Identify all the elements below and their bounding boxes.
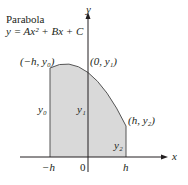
point-left-label: (−h, y₀) xyxy=(20,56,54,67)
x-axis-arrow xyxy=(161,155,168,160)
tick-zero: 0 xyxy=(80,162,86,173)
title-equation: y = Ax² + Bx + C xyxy=(6,26,83,37)
height-y0-label: y₀ xyxy=(38,104,47,115)
tick-neg-h: −h xyxy=(42,162,55,173)
height-y2-label: y₂ xyxy=(114,140,123,151)
parabola-area-diagram: Parabola y = Ax² + Bx + C y x (−h, y₀) (… xyxy=(0,0,188,185)
height-y1-label: y₁ xyxy=(77,104,86,115)
point-middle-label: (0, y₁) xyxy=(90,56,117,67)
title-line1: Parabola xyxy=(6,14,44,25)
tick-h: h xyxy=(123,162,129,173)
y-axis-label: y xyxy=(86,4,91,15)
point-right-label: (h, y₂) xyxy=(128,115,155,126)
x-axis-label: x xyxy=(172,151,177,162)
